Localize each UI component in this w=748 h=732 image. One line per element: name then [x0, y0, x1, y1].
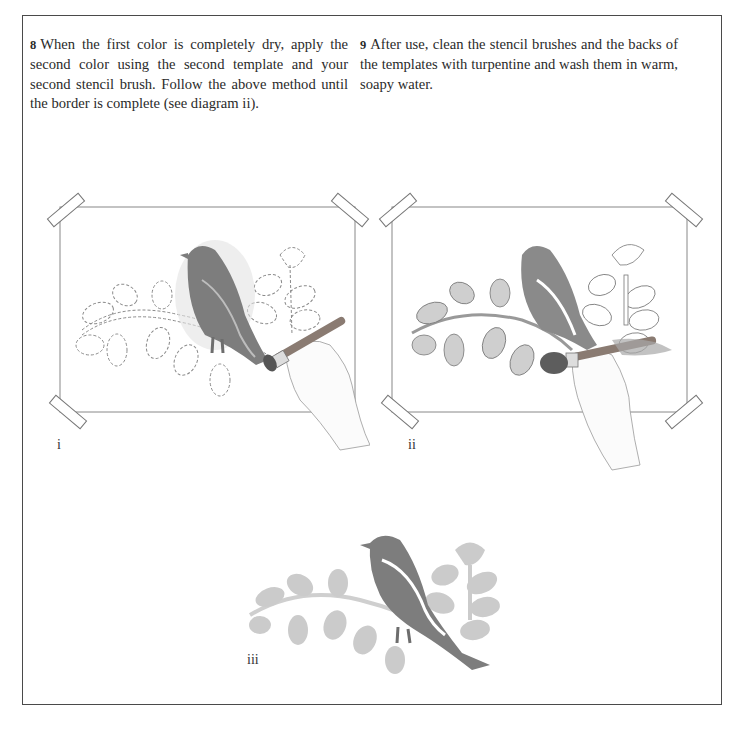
step-text: When the first color is completely dry, …	[30, 36, 348, 112]
figure-iii-label: iii	[247, 652, 259, 668]
step-8-paragraph: 8When the first color is completely dry,…	[30, 35, 348, 114]
step-text: After use, clean the stencil brushes and…	[360, 36, 678, 92]
step-number: 9	[360, 38, 366, 52]
figure-iii	[240, 515, 510, 675]
finished-border-motif	[249, 536, 502, 674]
step-number: 8	[30, 38, 36, 52]
figure-ii-label: ii	[408, 437, 416, 453]
step-9-paragraph: 9After use, clean the stencil brushes an…	[360, 35, 678, 95]
figure-ii	[372, 185, 712, 475]
figure-i-label: i	[57, 437, 61, 453]
figure-i	[30, 185, 370, 475]
